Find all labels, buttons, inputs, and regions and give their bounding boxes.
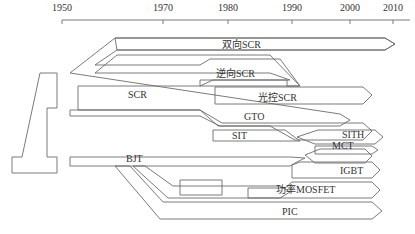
label-bjt: BJT bbox=[126, 154, 143, 164]
label-scr: SCR bbox=[128, 90, 147, 100]
label-sit: SIT bbox=[232, 131, 247, 141]
label-pic: PIC bbox=[282, 207, 298, 217]
origin-pedestal bbox=[12, 73, 57, 173]
label-reverse-scr: 逆向SCR bbox=[216, 69, 255, 79]
label-igbt: IGBT bbox=[340, 166, 363, 176]
label-power-mosfet: 功率MOSFET bbox=[276, 185, 335, 195]
igbt-arrow bbox=[292, 162, 380, 178]
mct-arrow-body bbox=[305, 149, 372, 163]
tick-label-2000: 2000 bbox=[340, 2, 360, 13]
tick-label-1970: 1970 bbox=[153, 2, 173, 13]
bjt-branch-upper bbox=[133, 166, 290, 198]
tick-label-1990: 1990 bbox=[282, 2, 302, 13]
connector-block bbox=[180, 180, 222, 195]
label-gto: GTO bbox=[244, 112, 264, 122]
tick-label-2010: 2010 bbox=[383, 2, 403, 13]
label-light-scr: 光控SCR bbox=[258, 93, 297, 103]
gto-arrow bbox=[70, 110, 372, 140]
label-mct: MCT bbox=[332, 141, 354, 151]
tick-label-1950: 1950 bbox=[52, 2, 72, 13]
power-device-timeline-diagram bbox=[0, 0, 415, 234]
label-bidirectional-scr: 双向SCR bbox=[222, 40, 261, 50]
timeline-axis bbox=[62, 20, 410, 24]
bjt-trunk bbox=[70, 157, 305, 166]
tick-label-1980: 1980 bbox=[218, 2, 238, 13]
scr-trunk-shape bbox=[70, 38, 395, 126]
label-sith: SITH bbox=[342, 130, 364, 140]
